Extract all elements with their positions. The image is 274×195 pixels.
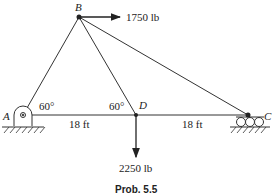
member-BD — [79, 17, 136, 115]
truss-diagram: B A D C 60° 60° 18 ft 18 ft 1750 lb 2250… — [0, 0, 274, 195]
dimension-label-AD: 18 ft — [69, 118, 89, 130]
node-label-C: C — [264, 110, 272, 122]
truss-members — [23, 17, 248, 115]
joint-C — [246, 113, 251, 118]
angle-label-A: 60° — [39, 100, 54, 112]
angle-label-D: 60° — [109, 100, 124, 112]
member-BC — [79, 17, 248, 115]
node-label-D: D — [138, 99, 147, 111]
node-label-B: B — [75, 1, 82, 13]
node-label-A: A — [2, 110, 10, 122]
load-label-D: 2250 lb — [119, 162, 153, 174]
figure-caption: Prob. 5.5 — [115, 184, 158, 195]
dimension-label-DC: 18 ft — [182, 118, 202, 130]
load-label-B: 1750 lb — [126, 11, 160, 23]
